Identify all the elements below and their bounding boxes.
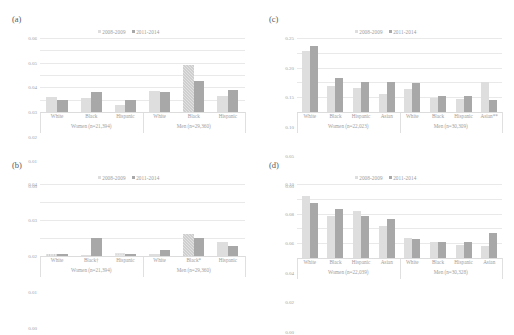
bar (489, 233, 497, 258)
bar (335, 209, 343, 258)
x-axis-tick-label: Hispanic (108, 113, 142, 119)
y-axis-tick-label: 0.04 (285, 270, 294, 275)
label-band-edge (502, 112, 503, 133)
x-axis-tick-label: White (143, 113, 177, 119)
legend-item: 2011-2014 (132, 28, 160, 35)
x-axis-tick-label: White (40, 113, 74, 119)
y-axis-tick-label: 0.20 (285, 65, 294, 70)
y-axis-tick-label: 0.08 (285, 211, 294, 216)
bar (464, 242, 472, 258)
x-axis-tick-label: Hispanic (211, 257, 245, 263)
group-label: Men (n=29,360) (143, 267, 246, 273)
panel-d: (d)2008-20092011-20140.100.080.060.040.0… (257, 146, 514, 291)
y-axis-tick-label: 0.15 (285, 95, 294, 100)
bar (404, 89, 412, 112)
legend-swatch-icon (355, 176, 358, 179)
panel-a: (a)2008-20092011-20140.060.050.040.030.0… (0, 0, 257, 145)
legend-label: 2011-2014 (393, 175, 416, 181)
bar (302, 196, 310, 258)
y-axis-tick-label: 0.03 (28, 110, 37, 115)
panel-c: (c)2008-20092011-20140.250.200.150.100.0… (257, 0, 514, 145)
y-axis-tick-label: 0.02 (28, 254, 37, 259)
legend-swatch-icon (132, 176, 135, 179)
y-axis-tick-label: 0.02 (28, 134, 37, 139)
bar (91, 238, 102, 256)
bar (353, 211, 361, 258)
group-labels: Women (n=22,023)Men (n=30,309) (297, 123, 502, 135)
legend-label: 2008-2009 (359, 175, 382, 181)
bar (327, 86, 335, 112)
bar (456, 99, 464, 112)
x-axis-tick-label: Hispanic (108, 257, 142, 263)
bars-layer (297, 184, 502, 258)
bar (456, 245, 464, 258)
bar (438, 96, 446, 112)
x-axis-tick-label: Black (74, 113, 108, 119)
legend-item: 2011-2014 (389, 28, 417, 35)
group-label: Women (n=22,039) (297, 269, 400, 275)
y-axis-tick-label: 0.10 (285, 182, 294, 187)
y-axis-tick-label: 0.01 (28, 290, 37, 295)
x-axis-tick-label: Asian (374, 259, 400, 265)
bar (91, 92, 102, 112)
panel-b: (b)2008-20092011-20140.040.030.020.010.0… (0, 146, 257, 291)
legend-label: 2011-2014 (393, 29, 416, 35)
x-axis-tick-label: Hispanic (348, 113, 374, 119)
legend-label: 2011-2014 (136, 29, 159, 35)
bar (115, 253, 126, 256)
bar (464, 96, 472, 112)
x-axis-tick-label: Black (425, 113, 451, 119)
bar (412, 83, 420, 112)
x-axis-tick-label: Black (177, 113, 211, 119)
legend-swatch-icon (355, 30, 358, 33)
bar (160, 250, 171, 256)
bar (149, 254, 160, 256)
group-label: Men (n=30,328) (400, 269, 503, 275)
y-axis-tick-label: 0.04 (28, 85, 37, 90)
bar (412, 239, 420, 258)
legend-swatch-icon (98, 176, 101, 179)
y-axis-tick-label: 0.03 (28, 218, 37, 223)
x-axis-tick-label: Asian (374, 113, 400, 119)
bar (57, 254, 68, 256)
bar (481, 246, 489, 258)
x-axis-tick-label: Hispanic (211, 113, 245, 119)
legend-label: 2008-2009 (359, 29, 382, 35)
bar (310, 203, 318, 258)
bar (335, 78, 343, 112)
bar (404, 238, 412, 258)
panel-letter-b: (b) (12, 160, 22, 170)
group-label: Women (n=22,023) (297, 123, 400, 129)
bar (430, 98, 438, 112)
chart-legend: 2008-20092011-2014 (0, 28, 257, 35)
bar (302, 51, 310, 112)
plot-area: 0.060.050.040.030.020.010.00 (40, 38, 245, 112)
legend-swatch-icon (98, 30, 101, 33)
bar (228, 246, 239, 256)
legend-item: 2008-2009 (355, 174, 383, 181)
bar (194, 81, 205, 112)
bar (217, 242, 228, 256)
chart-legend: 2008-20092011-2014 (257, 174, 514, 181)
x-axis-tick-label: Hispanic (348, 259, 374, 265)
bar (489, 100, 497, 112)
legend-label: 2008-2009 (102, 29, 125, 35)
bar (125, 100, 136, 112)
plot-area: 0.250.200.150.100.050.00 (297, 38, 502, 112)
group-label: Women (n=21,394) (40, 267, 143, 273)
legend-item: 2011-2014 (132, 174, 160, 181)
x-axis-tick-label: Asian** (476, 113, 502, 119)
label-band-edge (245, 256, 246, 277)
bar (430, 242, 438, 258)
y-axis-tick-label: 0.04 (28, 182, 37, 187)
x-axis-tick-label: Black† (74, 257, 108, 263)
legend-swatch-icon (132, 30, 135, 33)
x-axis-tick-label: White (297, 113, 323, 119)
bar (57, 100, 68, 112)
x-axis-tick-label: Black (323, 259, 349, 265)
bars-layer (40, 38, 245, 112)
legend-swatch-icon (389, 176, 392, 179)
bar (327, 216, 335, 258)
bar (379, 94, 387, 112)
legend-label: 2008-2009 (102, 175, 125, 181)
